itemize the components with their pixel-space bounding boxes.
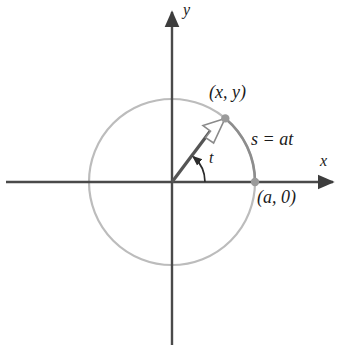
point-xy-label: (x, y) — [209, 83, 246, 101]
angle-arc — [194, 157, 205, 182]
angle-t-label: t — [209, 150, 213, 166]
y-axis-label: y — [183, 2, 190, 18]
arc-length-formula-label: s = at — [251, 130, 293, 148]
point-marker-xy — [221, 114, 229, 122]
point-a0-label: (a, 0) — [257, 188, 296, 206]
figure-canvas — [0, 0, 342, 357]
vector-arrowhead-icon — [203, 119, 225, 143]
circle-arc-figure: y x (x, y) s = at (a, 0) t — [0, 0, 342, 357]
point-marker-a0 — [251, 178, 259, 186]
arc-highlight — [225, 118, 255, 182]
x-axis-label: x — [320, 153, 327, 169]
